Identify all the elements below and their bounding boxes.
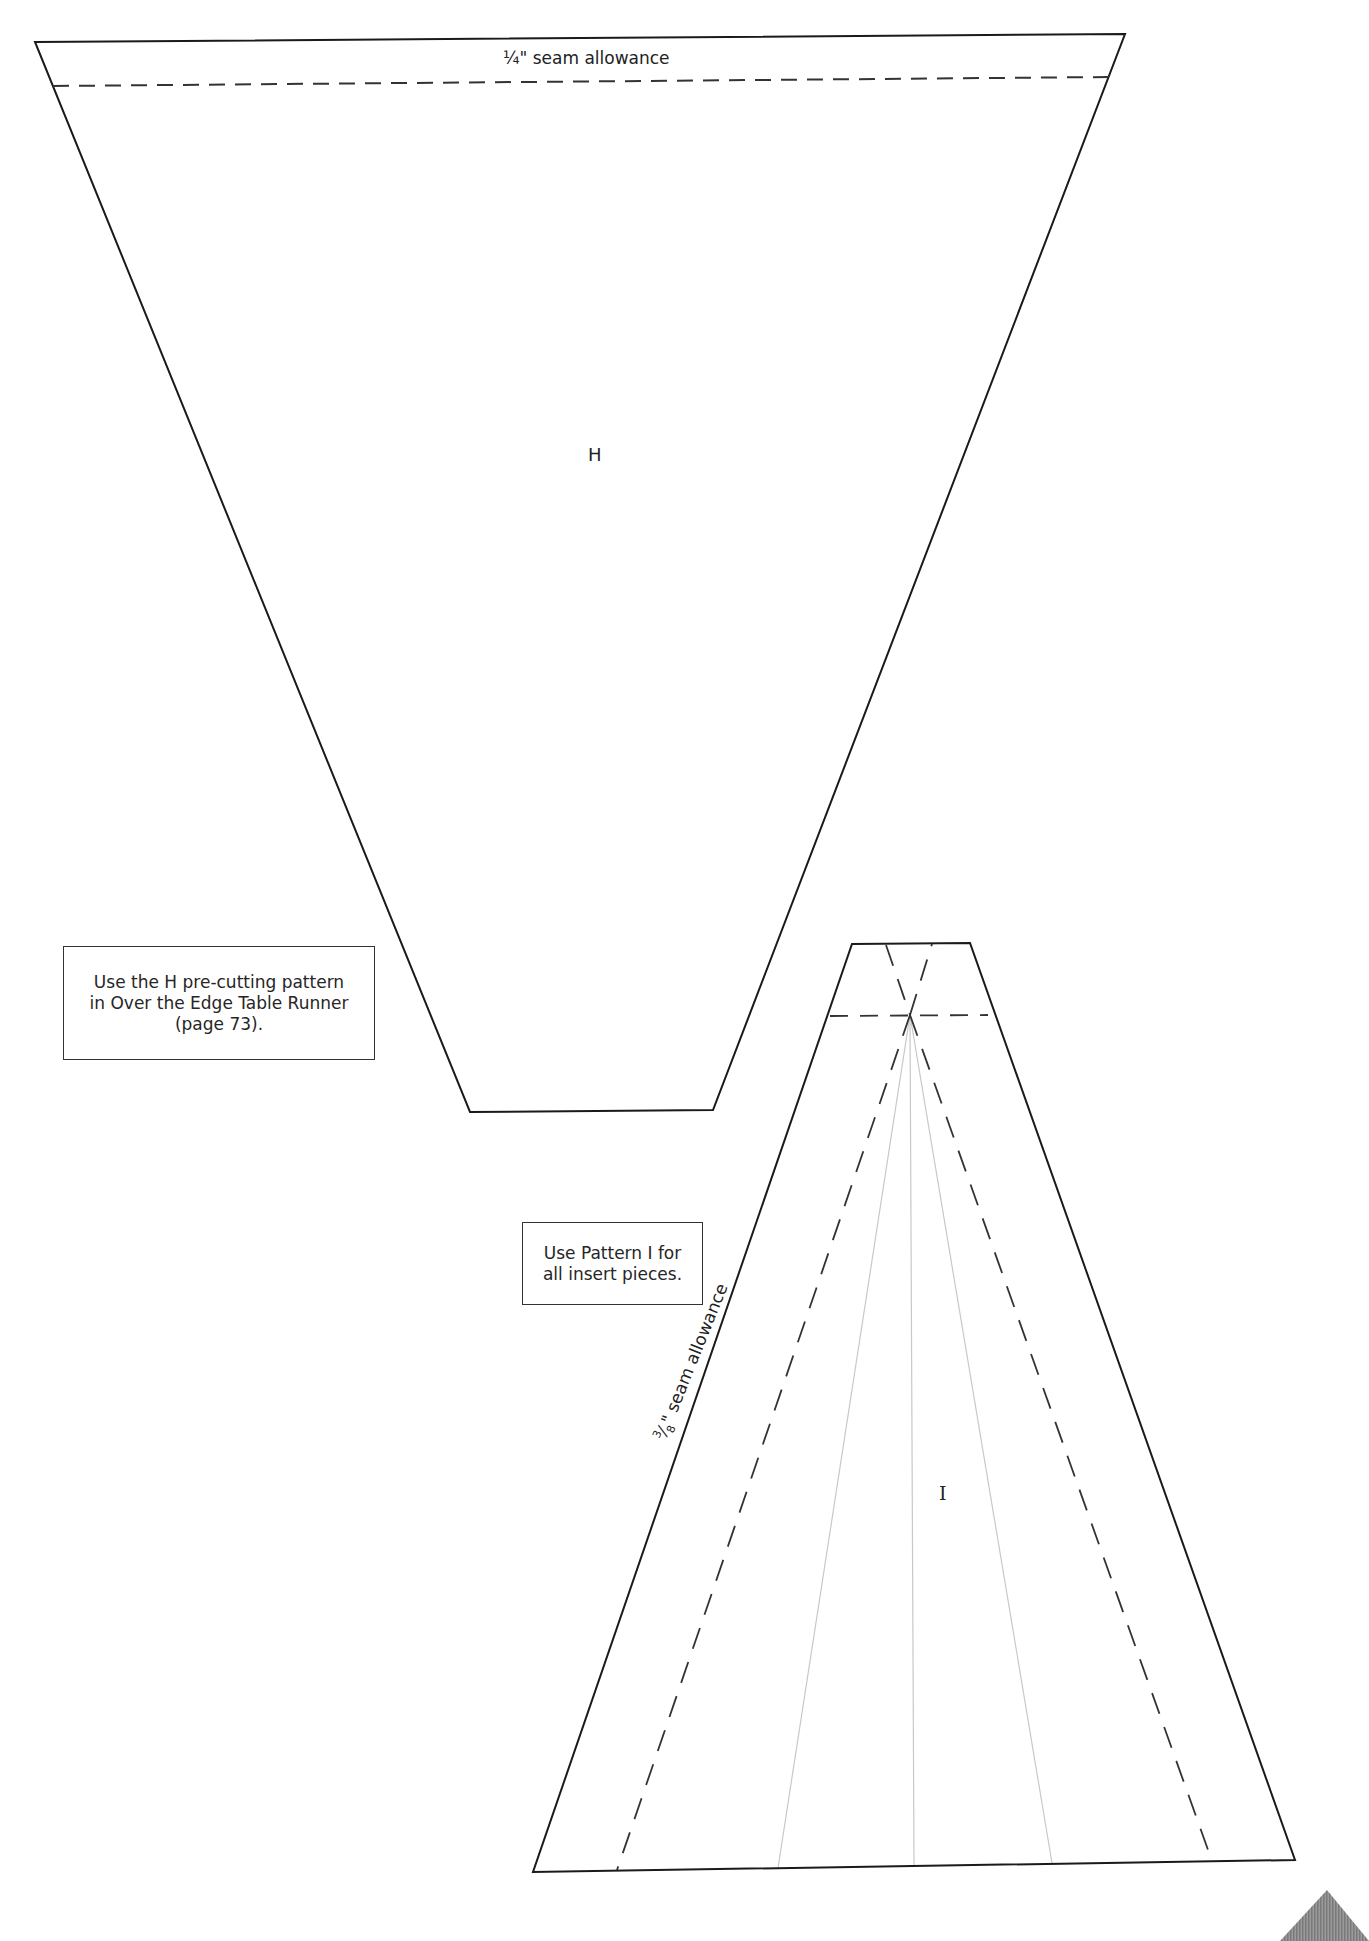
pattern-i-guide-lines — [778, 1015, 1052, 1868]
note-line: in Over the Edge Table Runner — [64, 993, 374, 1014]
seam-dashed-line — [910, 944, 932, 1015]
pattern-h-seam-label: ¼" seam allowance — [503, 48, 670, 68]
note-line: Use Pattern I for — [523, 1243, 702, 1264]
note-line: Use the H pre-cutting pattern — [64, 972, 374, 993]
page-corner-marker — [1280, 1890, 1369, 1941]
pattern-h-seam-line — [53, 77, 1110, 86]
pattern-h-note: Use the H pre-cutting pattern in Over th… — [63, 946, 375, 1060]
seam-dashed-line — [886, 945, 910, 1015]
pattern-i-outline — [533, 943, 1295, 1872]
pattern-i-letter: I — [939, 1482, 947, 1504]
pattern-h-letter: H — [588, 444, 602, 465]
pattern-i-dashed-lines — [617, 944, 1212, 1870]
note-line: (page 73). — [64, 1014, 374, 1035]
note-line: all insert pieces. — [523, 1264, 702, 1285]
grain-guide-line — [910, 1015, 914, 1866]
pattern-i — [533, 943, 1295, 1872]
pattern-i-note: Use Pattern I for all insert pieces. — [522, 1222, 703, 1305]
grain-guide-line — [910, 1015, 1052, 1863]
grain-guide-line — [778, 1015, 910, 1868]
seam-dashed-line — [910, 1015, 1212, 1861]
seam-dashed-line — [617, 1015, 910, 1870]
